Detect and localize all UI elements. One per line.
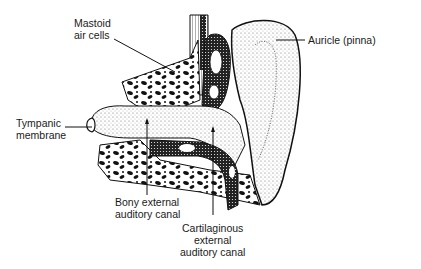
label-auricle: Auricle (pinna) (308, 34, 376, 46)
ear-anatomy-diagram: Mastoid air cells Auricle (pinna) Tympan… (0, 0, 421, 269)
label-cartilaginous-external-auditory-canal: Cartilaginous external auditory canal (180, 222, 245, 258)
label-tympanic-membrane: Tympanic membrane (16, 117, 66, 141)
mastoid-leader-line (114, 39, 175, 72)
label-bony-external-auditory-canal: Bony external auditory canal (115, 196, 180, 220)
label-mastoid-air-cells: Mastoid air cells (74, 17, 111, 41)
